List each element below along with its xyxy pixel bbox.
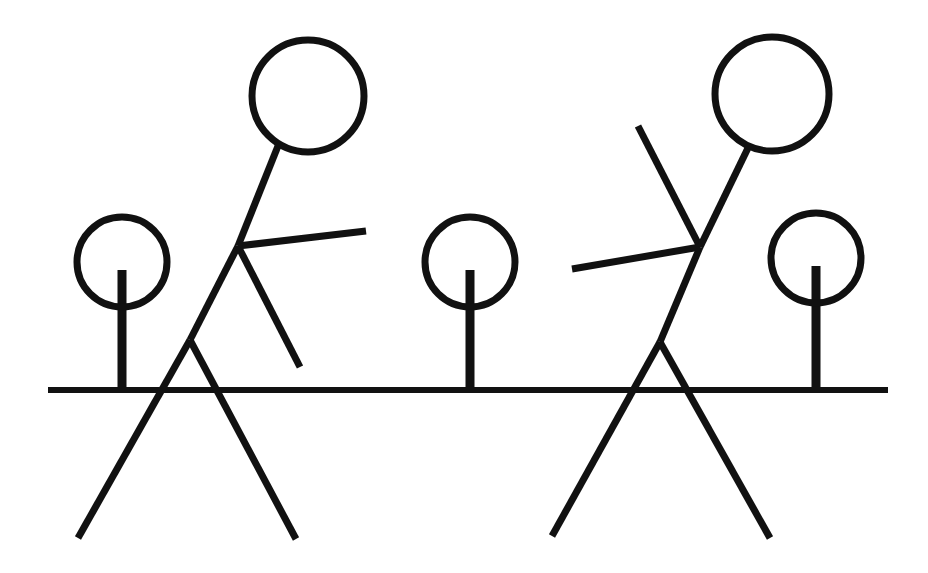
scene-svg xyxy=(0,0,928,573)
drawing-canvas xyxy=(0,0,928,573)
canvas-background xyxy=(0,0,928,573)
